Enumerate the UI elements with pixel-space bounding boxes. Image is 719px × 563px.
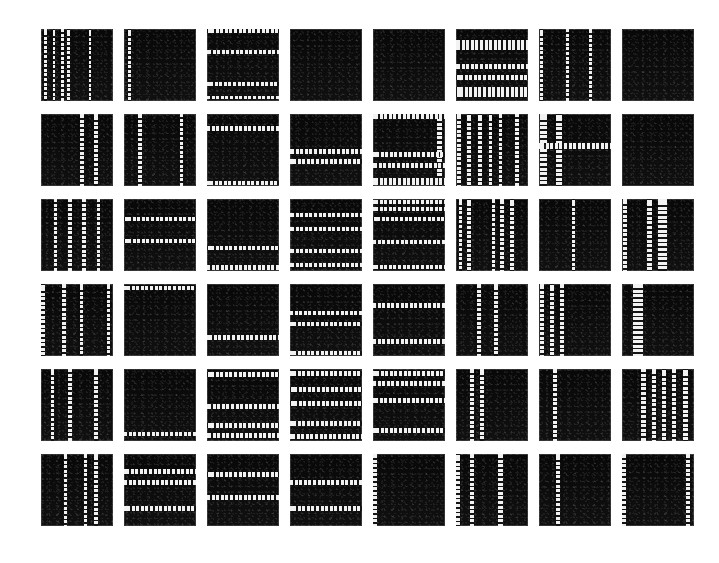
texture-patch <box>124 199 196 271</box>
vertical-dashed-stripe <box>51 369 55 441</box>
vertical-dashed-stripe <box>515 114 519 186</box>
horizontal-dashed-stripe <box>456 40 528 50</box>
horizontal-dashed-stripe <box>207 335 279 340</box>
vertical-dashed-stripe <box>180 114 184 186</box>
texture-patch <box>207 114 279 186</box>
horizontal-dashed-stripe <box>456 75 528 80</box>
horizontal-dashed-stripe <box>207 96 279 100</box>
horizontal-dashed-stripe <box>373 178 445 185</box>
vertical-dashed-stripe <box>62 284 66 356</box>
vertical-dashed-stripe <box>67 29 71 101</box>
texture-patch <box>373 284 445 356</box>
vertical-dashed-stripe <box>82 199 86 271</box>
vertical-dashed-stripe <box>658 199 667 271</box>
vertical-dashed-stripe <box>540 284 544 356</box>
vertical-dashed-stripe <box>683 369 687 441</box>
texture-patch <box>41 369 113 441</box>
vertical-dashed-stripe <box>80 284 84 356</box>
horizontal-dashed-stripe <box>290 322 362 326</box>
vertical-dashed-stripe <box>623 199 627 271</box>
vertical-dashed-stripe <box>672 369 676 441</box>
vertical-dashed-stripe <box>41 284 45 356</box>
horizontal-dashed-stripe <box>373 163 445 168</box>
vertical-dashed-stripe <box>499 114 503 186</box>
vertical-dashed-stripe <box>128 29 131 101</box>
texture-patch <box>207 29 279 101</box>
vertical-dashed-stripe <box>556 114 562 186</box>
horizontal-dashed-stripe <box>124 480 196 485</box>
horizontal-dashed-stripe <box>290 159 362 163</box>
texture-patch <box>373 369 445 441</box>
texture-patch <box>622 114 694 186</box>
horizontal-dashed-stripe <box>290 311 362 315</box>
vertical-dashed-stripe <box>647 199 651 271</box>
horizontal-dashed-stripe <box>207 423 279 428</box>
horizontal-dashed-stripe <box>290 213 362 217</box>
vertical-dashed-stripe <box>138 114 142 186</box>
vertical-dashed-stripe <box>622 454 626 526</box>
horizontal-dashed-stripe <box>207 246 279 250</box>
vertical-dashed-stripe <box>540 29 543 101</box>
horizontal-dashed-stripe <box>373 371 445 376</box>
vertical-dashed-stripe <box>500 199 504 271</box>
vertical-dashed-stripe <box>492 199 496 271</box>
horizontal-dashed-stripe <box>290 263 362 267</box>
horizontal-dashed-stripe <box>124 469 196 474</box>
vertical-dashed-stripe <box>510 199 514 271</box>
texture-patch <box>373 29 445 101</box>
vertical-dashed-stripe <box>652 369 656 441</box>
vertical-dashed-stripe <box>64 454 68 526</box>
horizontal-dashed-stripe <box>207 404 279 409</box>
patch-grid <box>41 29 694 526</box>
horizontal-dashed-stripe <box>207 29 279 33</box>
vertical-dashed-stripe <box>478 114 482 186</box>
horizontal-dashed-stripe <box>373 217 445 221</box>
texture-patch <box>373 199 445 271</box>
vertical-dashed-stripe <box>68 369 72 441</box>
texture-patch <box>290 284 362 356</box>
horizontal-dashed-stripe <box>124 506 196 511</box>
texture-patch <box>41 29 113 101</box>
vertical-dashed-stripe <box>437 114 442 186</box>
vertical-dashed-stripe <box>467 114 471 186</box>
horizontal-dashed-stripe <box>124 432 196 436</box>
vertical-dashed-stripe <box>61 29 64 101</box>
vertical-dashed-stripe <box>373 454 377 526</box>
horizontal-dashed-stripe <box>373 265 445 269</box>
vertical-dashed-stripe <box>94 454 98 526</box>
horizontal-dashed-stripe <box>207 372 279 377</box>
vertical-dashed-stripe <box>498 454 502 526</box>
horizontal-dashed-stripe <box>207 433 279 438</box>
texture-patch <box>456 114 528 186</box>
vertical-dashed-stripe <box>572 199 576 271</box>
texture-patch <box>539 284 611 356</box>
vertical-dashed-stripe <box>44 29 47 101</box>
vertical-dashed-stripe <box>477 284 481 356</box>
vertical-dashed-stripe <box>80 114 84 186</box>
vertical-dashed-stripe <box>89 29 92 101</box>
texture-patch <box>290 369 362 441</box>
vertical-dashed-stripe <box>560 284 564 356</box>
vertical-dashed-stripe <box>489 114 493 186</box>
horizontal-dashed-stripe <box>290 227 362 231</box>
vertical-dashed-stripe <box>84 454 88 526</box>
vertical-dashed-stripe <box>553 369 557 441</box>
texture-patch <box>539 369 611 441</box>
horizontal-dashed-stripe <box>290 434 362 439</box>
vertical-dashed-stripe <box>68 199 72 271</box>
texture-patch <box>207 454 279 526</box>
texture-patch <box>41 114 113 186</box>
vertical-dashed-stripe <box>633 284 643 356</box>
texture-patch <box>622 284 694 356</box>
horizontal-dashed-stripe <box>124 239 196 243</box>
horizontal-dashed-stripe <box>373 207 445 211</box>
vertical-dashed-stripe <box>470 454 474 526</box>
horizontal-dashed-stripe <box>290 506 362 511</box>
texture-patch <box>539 114 611 186</box>
vertical-dashed-stripe <box>470 369 474 441</box>
horizontal-dashed-stripe <box>207 126 279 130</box>
horizontal-dashed-stripe <box>456 64 528 69</box>
horizontal-dashed-stripe <box>207 265 279 269</box>
texture-patch <box>207 199 279 271</box>
horizontal-dashed-stripe <box>124 286 196 290</box>
